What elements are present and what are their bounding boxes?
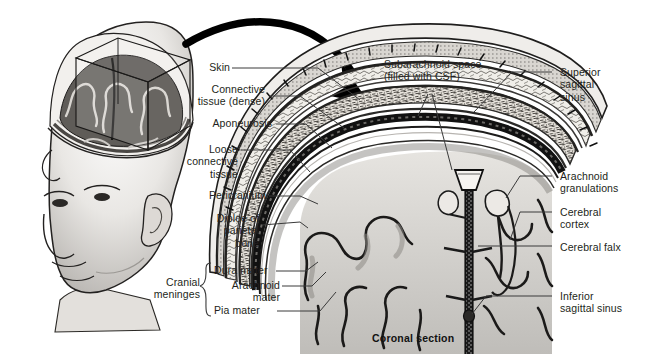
label-pia-mater: Pia mater [214, 304, 294, 316]
label-dura-mater: Dura mater [214, 264, 294, 276]
label-diploe-parietal-bone: Diploe of parietal bone [140, 212, 259, 249]
label-connective-tissue: Connective tissue (dense) [130, 83, 265, 108]
label-pericranium: Pericranium [140, 189, 266, 201]
label-cerebral-falx: Cerebral falx [560, 241, 644, 253]
label-arachnoid-granulations: Arachnoid granulations [560, 170, 644, 195]
figure-caption: Coronal section [372, 332, 454, 344]
figure-canvas: Skin Connective tissue (dense) Aponeuros… [0, 0, 645, 354]
label-aponeurosis: Aponeurosis [140, 117, 272, 129]
inferior-sagittal-sinus [464, 310, 475, 322]
anatomical-illustration [0, 0, 645, 354]
label-cerebral-cortex: Cerebral cortex [560, 206, 644, 231]
label-arachnoid-mater: Arachnoid mater [200, 279, 280, 304]
label-superior-sagittal-sinus: Superior sagittal sinus [560, 66, 644, 103]
label-cranial-meninges-group: Cranial meninges [120, 276, 200, 301]
label-loose-connective-tissue: Loose connective tissue [140, 143, 238, 180]
label-inferior-sagittal-sinus: Inferior sagittal sinus [560, 290, 645, 315]
label-skin: Skin [142, 61, 230, 73]
label-subarachnoid-space: Subarachnoid space (filled with CSF) [384, 58, 514, 83]
